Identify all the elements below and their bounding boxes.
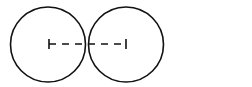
left-circle bbox=[11, 7, 86, 82]
tangent-circles-diagram bbox=[0, 0, 252, 87]
